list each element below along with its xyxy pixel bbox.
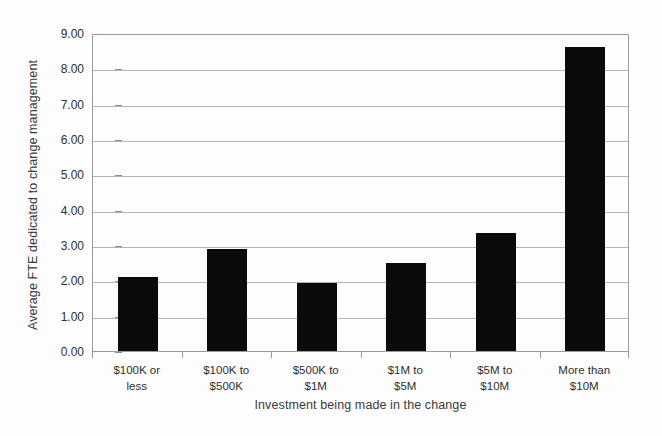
x-tick-mark <box>271 352 272 358</box>
bar[interactable] <box>297 283 337 351</box>
x-tick-label-line: less <box>92 378 182 394</box>
x-tick-label-line: $500K <box>182 378 272 394</box>
x-tick-label-line: $5M <box>361 378 451 394</box>
y-tick-label: 9.00 <box>30 27 84 41</box>
x-tick-label-line: $500K to <box>271 362 361 378</box>
bar-slot <box>272 35 362 351</box>
x-axis-title: Investment being made in the change <box>92 398 629 412</box>
y-tick-label: 6.00 <box>30 133 84 147</box>
x-tick-mark <box>92 352 93 358</box>
x-axis-tick-marks <box>92 352 629 358</box>
x-tick-mark <box>450 352 451 358</box>
bar-slot <box>183 35 273 351</box>
x-tick-mark <box>540 352 541 358</box>
y-tick-label: 3.00 <box>30 239 84 253</box>
x-tick-label-line: $100K to <box>182 362 272 378</box>
y-tick-label: 5.00 <box>30 168 84 182</box>
y-tick-label: 8.00 <box>30 62 84 76</box>
bar-slot <box>362 35 452 351</box>
bar[interactable] <box>476 233 516 351</box>
y-tick-label: 7.00 <box>30 98 84 112</box>
x-tick-label: $1M to$5M <box>361 362 451 394</box>
x-tick-label-line: $10M <box>540 378 630 394</box>
y-tick-label: 4.00 <box>30 204 84 218</box>
y-tick-label: 0.00 <box>30 345 84 359</box>
x-tick-label-line: $5M to <box>450 362 540 378</box>
bar[interactable] <box>118 277 158 351</box>
bar[interactable] <box>207 249 247 351</box>
x-tick-label: $5M to$10M <box>450 362 540 394</box>
y-tick-label: 2.00 <box>30 274 84 288</box>
bar-slot <box>93 35 183 351</box>
x-tick-label: $500K to$1M <box>271 362 361 394</box>
x-tick-label-line: $10M <box>450 378 540 394</box>
x-tick-label: More than$10M <box>540 362 630 394</box>
y-axis-tick-labels: 0.001.002.003.004.005.006.007.008.009.00 <box>30 34 84 352</box>
bar-slot <box>541 35 631 351</box>
x-tick-label: $100K to$500K <box>182 362 272 394</box>
x-tick-mark <box>361 352 362 358</box>
x-tick-mark <box>182 352 183 358</box>
bar[interactable] <box>565 47 605 351</box>
x-tick-label: $100K orless <box>92 362 182 394</box>
x-axis-tick-labels: $100K orless$100K to$500K$500K to$1M$1M … <box>92 362 629 396</box>
chart-screenshot: Average FTE dedicated to change manageme… <box>0 0 662 436</box>
x-tick-label-line: More than <box>540 362 630 378</box>
x-tick-label-line: $100K or <box>92 362 182 378</box>
x-tick-label-line: $1M to <box>361 362 451 378</box>
x-tick-mark <box>628 352 629 358</box>
plot-area <box>92 34 629 352</box>
bar-series <box>93 35 628 351</box>
bar-slot <box>451 35 541 351</box>
y-tick-label: 1.00 <box>30 310 84 324</box>
bar[interactable] <box>386 263 426 351</box>
x-tick-label-line: $1M <box>271 378 361 394</box>
